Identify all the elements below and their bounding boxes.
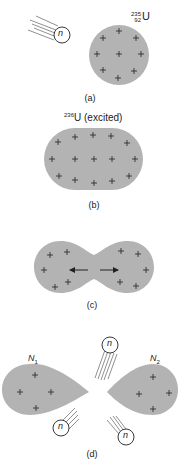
caption-b: (b) (89, 200, 100, 210)
fragment-subscript: 1 (35, 359, 38, 365)
caption-a: (a) (85, 93, 96, 103)
neutron-letter: n (107, 338, 112, 348)
neutron-incoming (28, 16, 70, 43)
neutron-letter: n (123, 430, 128, 440)
panel-b (44, 128, 143, 190)
fission-diagram (0, 0, 179, 467)
isotope-label-u235: 23592U (131, 10, 150, 23)
caption-c: (c) (87, 300, 98, 310)
emitted-neutron-right (107, 416, 134, 445)
excited-state: (excited) (81, 112, 122, 123)
fragment-label-n1: N1 (28, 353, 38, 365)
panel-c (34, 241, 154, 293)
neutron-letter: n (58, 28, 63, 38)
fragment-subscript: 2 (157, 359, 160, 365)
caption-d: (d) (87, 449, 98, 459)
panel-a (28, 16, 149, 85)
isotope-label-u236-excited: 236U (excited) (64, 112, 122, 123)
fragment-n1 (2, 364, 89, 415)
element-symbol: U (142, 10, 150, 22)
atomic-number: 92 (134, 17, 141, 23)
mass-number: 236 (64, 112, 74, 118)
fragment-n2 (107, 364, 178, 415)
neutron-letter: n (58, 421, 63, 431)
fragment-label-n2: N2 (150, 353, 160, 365)
emitted-neutron-left (53, 408, 79, 436)
